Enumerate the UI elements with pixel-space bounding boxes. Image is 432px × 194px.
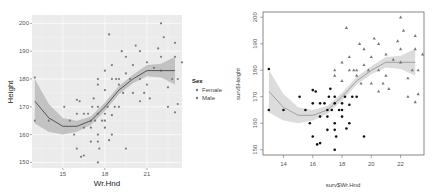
svg-text:21: 21 xyxy=(144,171,151,177)
legend-male-label: Male xyxy=(202,95,216,101)
left-y-axis-title: Height xyxy=(6,80,15,104)
svg-text:18: 18 xyxy=(102,171,109,177)
right-x-axis-title: surv$Wr.Hnd xyxy=(326,182,361,188)
charts-canvas: 150160170180190200 151821 Wr.Hnd Height … xyxy=(0,0,432,194)
svg-text:200: 200 xyxy=(19,20,30,26)
left-chart: 150160170180190200 151821 Wr.Hnd Height … xyxy=(6,15,223,188)
svg-text:15: 15 xyxy=(59,171,66,177)
legend-male-marker xyxy=(196,97,198,99)
left-x-axis-title: Wr.Hnd xyxy=(94,179,121,188)
right-data-points xyxy=(268,15,425,151)
svg-text:170: 170 xyxy=(19,104,30,110)
left-plot-panel xyxy=(32,15,182,168)
svg-text:16: 16 xyxy=(309,161,316,167)
svg-text:14: 14 xyxy=(280,161,287,167)
svg-text:160: 160 xyxy=(252,118,258,129)
legend-female-marker xyxy=(196,89,198,91)
left-y-axis: 150160170180190200 xyxy=(19,20,32,165)
legend-title: Sex xyxy=(192,78,203,84)
right-y-axis-title: surv$Height xyxy=(235,68,241,100)
legend-female-label: Female xyxy=(202,87,223,93)
right-plot-box xyxy=(263,12,424,155)
right-chart: 150160170180190200 1416182022 surv$Wr.Hn… xyxy=(235,12,424,188)
svg-text:180: 180 xyxy=(19,76,30,82)
svg-text:170: 170 xyxy=(252,91,258,102)
svg-text:190: 190 xyxy=(252,38,258,49)
svg-text:150: 150 xyxy=(19,159,30,165)
svg-text:200: 200 xyxy=(252,12,258,23)
left-x-axis: 151821 xyxy=(59,168,150,177)
right-y-axis: 150160170180190200 xyxy=(252,12,263,155)
svg-text:20: 20 xyxy=(368,161,375,167)
svg-text:190: 190 xyxy=(19,48,30,54)
svg-text:180: 180 xyxy=(252,65,258,76)
svg-text:160: 160 xyxy=(19,132,30,138)
legend: Sex Female Male xyxy=(192,78,223,101)
svg-text:150: 150 xyxy=(252,144,258,155)
right-x-axis: 1416182022 xyxy=(280,155,404,167)
svg-text:18: 18 xyxy=(339,161,346,167)
svg-text:22: 22 xyxy=(397,161,404,167)
